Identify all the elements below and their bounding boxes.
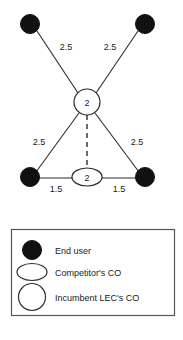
edge-label-bottom-right-diagonal: 2.5	[131, 137, 144, 147]
node-end-user-bottom-left[interactable]	[21, 168, 40, 187]
edge-label-bottom-left-horizontal: 1.5	[50, 184, 63, 194]
legend-symbol-competitor-co-icon	[17, 264, 47, 281]
node-end-user-top-left[interactable]	[21, 15, 40, 34]
edge-center-to-top-left	[37, 31, 78, 93]
edge-label-bottom-left-diagonal: 2.5	[33, 137, 46, 147]
legend: End user Competitor's CO Incumbent LEC's…	[12, 230, 175, 316]
node-end-user-bottom-right[interactable]	[136, 168, 155, 187]
edge-label-top-left: 2.5	[60, 42, 73, 52]
node-end-user-top-right[interactable]	[136, 15, 155, 34]
legend-symbol-incumbent-lec-co-icon	[19, 284, 46, 311]
legend-label-competitor-co: Competitor's CO	[55, 268, 121, 278]
diagram-root: 2.5 2.5 2.5 2.5 1.5 1.5 2 2 End user	[0, 0, 183, 340]
network-diagram: 2.5 2.5 2.5 2.5 1.5 1.5 2 2 End user	[0, 0, 183, 340]
edge-center-to-top-right	[96, 31, 138, 93]
node-label-incumbent-lec-co: 2	[84, 98, 89, 108]
legend-symbol-end-user-icon	[23, 241, 42, 260]
legend-label-end-user: End user	[55, 246, 91, 256]
legend-label-incumbent-lec-co: Incumbent LEC's CO	[55, 293, 139, 303]
node-label-competitor-co: 2	[84, 173, 89, 183]
edge-label-bottom-right-horizontal: 1.5	[113, 184, 126, 194]
edge-label-top-right: 2.5	[104, 42, 117, 52]
